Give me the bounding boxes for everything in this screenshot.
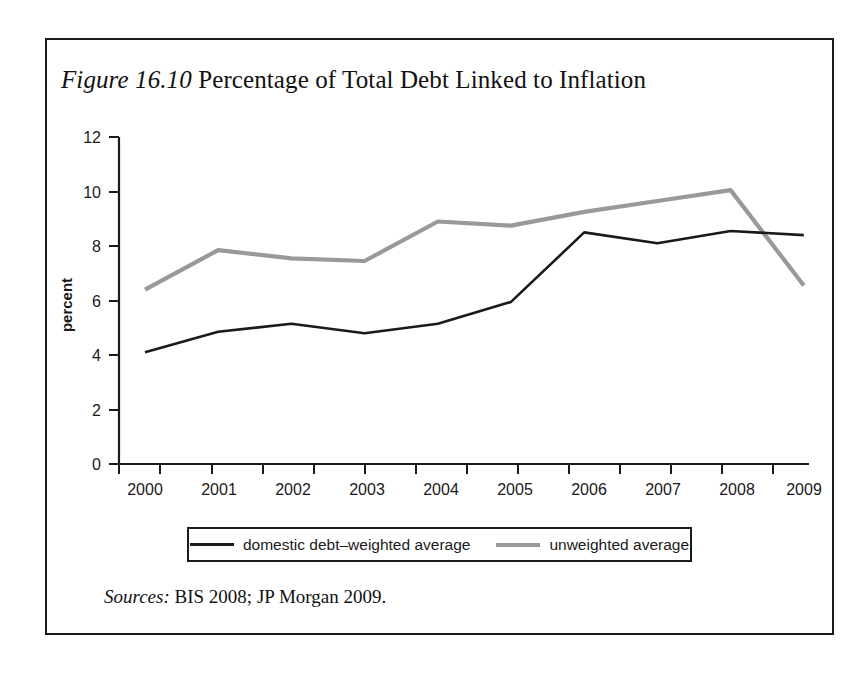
series-line-domestic-debt-weighted-average [145, 231, 804, 352]
sources-label: Sources: [104, 586, 170, 607]
x-tick-label: 2000 [127, 481, 163, 498]
y-tick-label: 10 [83, 184, 101, 201]
figure-frame: Figure 16.10 Percentage of Total Debt Li… [45, 38, 834, 635]
legend-label-domestic: domestic debt–weighted average [243, 536, 470, 554]
x-tick-label: 2001 [201, 481, 237, 498]
y-tick-label: 2 [92, 402, 101, 419]
legend-swatch-gray-line-icon [496, 543, 540, 547]
x-tick-label: 2007 [645, 481, 681, 498]
legend-entry-unweighted: unweighted average [496, 536, 689, 554]
x-tick-label: 2008 [719, 481, 755, 498]
sources-text: BIS 2008; JP Morgan 2009. [170, 586, 386, 607]
x-tick-label: 2004 [423, 481, 459, 498]
y-tick-label: 6 [92, 293, 101, 310]
x-tick-label: 2006 [571, 481, 607, 498]
sources-note: Sources: BIS 2008; JP Morgan 2009. [104, 586, 386, 608]
legend-entry-domestic: domestic debt–weighted average [190, 536, 470, 554]
x-axis-tick-labels: 2000 2001 2002 2003 2004 2005 2006 2007 … [127, 481, 822, 498]
y-axis-title: percent [58, 278, 75, 332]
y-tick-label: 4 [92, 347, 101, 364]
y-axis-ticks [109, 137, 119, 464]
x-tick-label: 2003 [349, 481, 385, 498]
x-tick-label: 2009 [786, 481, 822, 498]
legend-label-unweighted: unweighted average [549, 536, 689, 554]
chart-legend: domestic debt–weighted average unweighte… [187, 527, 692, 562]
y-tick-label: 8 [92, 238, 101, 255]
x-tick-label: 2005 [497, 481, 533, 498]
series-line-unweighted-average [145, 190, 804, 290]
y-axis-tick-labels: 0 2 4 6 8 10 12 [83, 129, 101, 473]
y-tick-label: 0 [92, 456, 101, 473]
x-tick-label: 2002 [275, 481, 311, 498]
legend-swatch-black-line-icon [190, 543, 234, 546]
y-tick-label: 12 [83, 129, 101, 146]
x-axis-ticks [119, 464, 773, 474]
